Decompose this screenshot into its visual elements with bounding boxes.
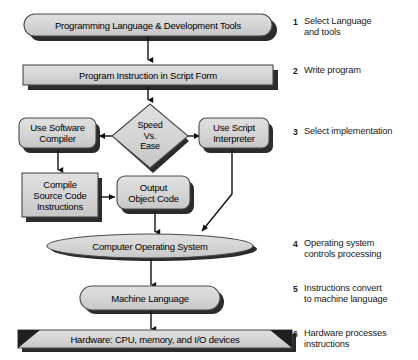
node-compiler [19,118,96,148]
step-text-4: Operating system controls processing [304,238,381,260]
step-annotation-list: 1 Select Language and tools 2 Write prog… [290,0,418,360]
node-hardware-banner [18,330,292,348]
step-item-1: 1 Select Language and tools [293,16,372,38]
node-machine-language [80,286,220,310]
step-item-3: 3 Select implementation [293,126,392,137]
step-number-4: 4 [293,238,304,249]
step-number-2: 2 [293,65,304,76]
step-text-3: Select implementation [304,126,392,137]
step-text-5: Instructions convert to machine language [304,283,387,305]
node-script-form [23,65,273,85]
node-os [47,234,253,258]
flowchart-canvas: Programming Language & Development Tools… [0,0,418,360]
step-item-4: 4 Operating system controls processing [293,238,381,260]
node-object-code [117,176,190,209]
step-number-3: 3 [293,126,304,137]
step-text-6: Hardware processes instructions [304,328,387,350]
node-lang-tools [24,14,272,36]
step-item-6: 6 Hardware processes instructions [293,328,387,350]
shape-bodies [18,14,292,348]
step-number-6: 6 [293,328,304,339]
node-interpreter [199,118,269,148]
step-number-1: 1 [293,16,304,27]
node-compile-src [22,173,98,217]
step-text-1: Select Language and tools [304,16,372,38]
step-item-2: 2 Write program [293,65,361,76]
step-text-2: Write program [304,65,361,76]
step-number-5: 5 [293,283,304,294]
step-item-5: 5 Instructions convert to machine langua… [293,283,387,305]
node-decision [112,104,188,168]
